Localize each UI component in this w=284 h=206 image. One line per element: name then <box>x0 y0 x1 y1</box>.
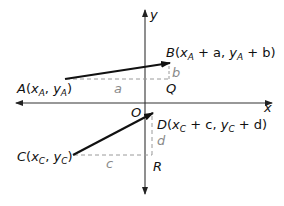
point-q-label: Q <box>166 82 176 95</box>
diagram-canvas <box>0 0 284 206</box>
component-d-label: d <box>157 134 165 147</box>
component-b-label: b <box>172 66 180 79</box>
component-c-label: c <box>106 157 113 170</box>
translation-diagram: y x O A(xA, yA) B(xA + a, yA + b) C(xC, … <box>0 0 284 206</box>
origin-label: O <box>131 106 141 119</box>
point-r-label: R <box>153 160 162 173</box>
x-axis-label: x <box>264 101 272 114</box>
point-d-label: D(xC + c, yC + d) <box>157 118 267 134</box>
vector-ab <box>65 63 170 79</box>
component-a-label: a <box>114 82 122 95</box>
point-c-label: C(xC, yC) <box>17 150 73 166</box>
y-axis-label: y <box>150 8 158 21</box>
point-a-label: A(xA, yA) <box>17 82 72 98</box>
vector-cd <box>73 113 153 155</box>
point-b-label: B(xA + a, yA + b) <box>166 46 276 62</box>
